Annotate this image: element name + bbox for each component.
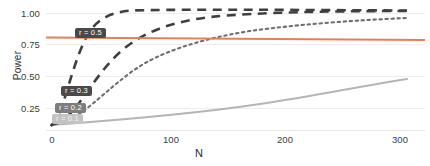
xtick-label: 100 [151, 134, 191, 145]
power-curve-chart: 1.00 0.75 0.50 0.25 0 100 200 300 Power … [0, 0, 430, 166]
series-annotation-r-0-3: r = 0.3 [61, 86, 92, 96]
xtick-label: 300 [380, 134, 420, 145]
y-axis-label: Power [12, 36, 23, 96]
ytick-label: 1.00 [6, 8, 40, 19]
series-annotation-r-0-5: r = 0.5 [75, 28, 106, 38]
series-annotation-r-0-1: r = 0.1 [52, 114, 83, 124]
xtick-label: 0 [32, 134, 72, 145]
series-line-r-0-1 [51, 79, 407, 125]
series-annotation-r-0-2: r = 0.2 [55, 103, 86, 113]
x-axis-label: N [195, 147, 203, 159]
xtick-label: 200 [265, 134, 305, 145]
ytick-label: 0.25 [6, 103, 40, 114]
